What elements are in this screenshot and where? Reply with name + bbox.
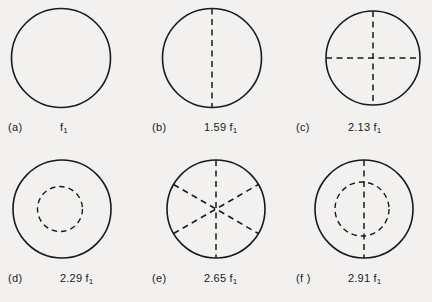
mode-label-b: (b) 1.59 f1 xyxy=(144,116,288,138)
mode-frequency-c: 2.13 f1 xyxy=(348,121,381,133)
mode-cell-d: (d) 2.29 f1 xyxy=(0,151,144,302)
mode-frequency-d: 2.29 f1 xyxy=(60,272,93,284)
mode-label-d: (d) 2.29 f1 xyxy=(0,267,144,289)
mode-diagram-d xyxy=(0,151,144,269)
mode-diagram-c xyxy=(288,0,432,118)
mode-cell-b: (b) 1.59 f1 xyxy=(144,0,288,151)
mode-frequency-c-text: 2.13 f xyxy=(348,121,377,133)
nodal-circle-icon xyxy=(335,182,389,236)
mode-label-a: (a) f1 xyxy=(0,116,144,138)
mode-frequency-d-text: 2.29 f xyxy=(60,272,89,284)
mode-cell-f: (f ) 2.91 f1 xyxy=(288,151,432,302)
mode-frequency-f-text: 2.91 f xyxy=(348,272,377,284)
mode-index-b: (b) xyxy=(152,121,182,133)
mode-label-c: (c) 2.13 f1 xyxy=(288,116,432,138)
mode-cell-e: (e) 2.65 f1 xyxy=(144,151,288,302)
mode-index-d: (d) xyxy=(8,272,38,284)
mode-cell-a: (a) f1 xyxy=(0,0,144,151)
mode-index-e: (e) xyxy=(152,272,182,284)
mode-frequency-f: 2.91 f1 xyxy=(348,272,381,284)
mode-diagram-b xyxy=(144,0,288,118)
outer-circle-icon xyxy=(12,9,111,108)
outer-circle-icon xyxy=(13,160,111,258)
mode-frequency-e-text: 2.65 f xyxy=(204,272,233,284)
mode-frequency-b-text: 1.59 f xyxy=(204,121,233,133)
mode-frequency-b: 1.59 f1 xyxy=(204,121,237,133)
nodal-circle-icon xyxy=(38,187,83,232)
mode-index-c: (c) xyxy=(296,121,326,133)
mode-frequency-a-sub: 1 xyxy=(63,126,68,135)
mode-cell-c: (c) 2.13 f1 xyxy=(288,0,432,151)
mode-frequency-f-sub: 1 xyxy=(377,277,382,286)
mode-frequency-e: 2.65 f1 xyxy=(204,272,237,284)
mode-diagram-e xyxy=(144,151,288,269)
mode-frequency-a: f1 xyxy=(60,121,68,133)
figure-root: (a) f1 (b) 1.59 f1 (c) 2.13 f1 xyxy=(0,0,432,302)
mode-frequency-d-sub: 1 xyxy=(89,277,94,286)
mode-label-f: (f ) 2.91 f1 xyxy=(288,267,432,289)
mode-index-f: (f ) xyxy=(296,272,326,284)
mode-frequency-e-sub: 1 xyxy=(233,277,238,286)
mode-frequency-c-sub: 1 xyxy=(377,126,382,135)
mode-diagram-a xyxy=(0,0,144,118)
mode-frequency-b-sub: 1 xyxy=(233,126,238,135)
mode-label-e: (e) 2.65 f1 xyxy=(144,267,288,289)
mode-index-a: (a) xyxy=(8,121,38,133)
mode-diagram-f xyxy=(288,151,432,269)
